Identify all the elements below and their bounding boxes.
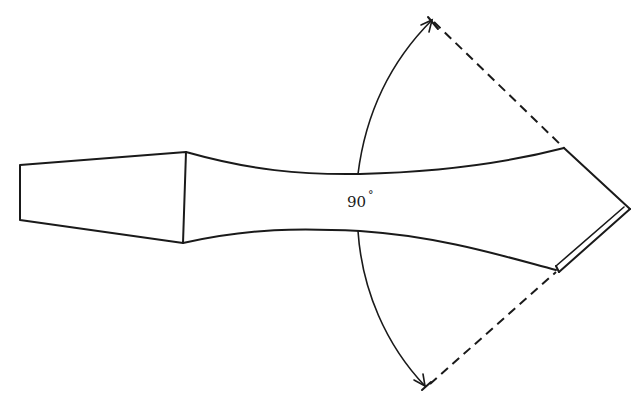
dashed-extension-upper (434, 22, 564, 148)
shank-block (20, 152, 186, 243)
tip-lower-cap (556, 266, 559, 272)
dashed-extension-lower (430, 272, 556, 384)
angle-arc-upper (358, 20, 432, 174)
neck-upper-edge (186, 148, 564, 174)
tip-lower-edge-outer (559, 209, 630, 272)
tip-lower-edge-inner (556, 207, 624, 266)
angle-value: 90 (347, 193, 366, 211)
tool-angle-diagram: 90 ° (0, 0, 640, 404)
degree-symbol: ° (368, 189, 374, 202)
angle-arc-lower (358, 231, 425, 386)
angle-label: 90 (347, 193, 366, 211)
tip-upper-edge (564, 148, 630, 209)
neck-lower-edge (183, 229, 556, 270)
